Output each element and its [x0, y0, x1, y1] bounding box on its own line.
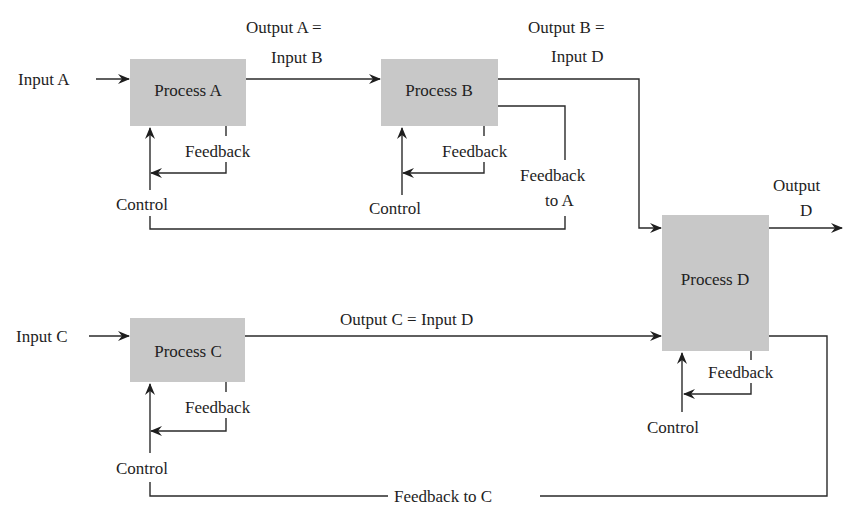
output-c-label: Output C = Input D [340, 310, 473, 329]
feedback-c-label: Feedback [185, 398, 251, 417]
process-d-label: Process D [681, 270, 749, 289]
process-d-group: Process D Output D Feedback Control [647, 176, 842, 437]
feedback-d-label: Feedback [708, 363, 774, 382]
control-a-label: Control [116, 195, 168, 214]
output-b-label: Output B = [528, 18, 605, 37]
feedback-to-a-line-bottom [150, 216, 565, 229]
feedback-to-c-line-right [540, 336, 827, 496]
process-b-group: Process B Feedback Control [369, 59, 508, 218]
process-c-label: Process C [154, 342, 222, 361]
control-d-label: Control [647, 418, 699, 437]
input-c-label: Input C [16, 327, 67, 346]
edge-b-to-d [498, 79, 661, 228]
control-c-label: Control [116, 459, 168, 478]
feedback-d-arrow [684, 383, 751, 394]
feedback-to-a-label-2: to A [545, 191, 575, 210]
process-a-label: Process A [154, 81, 222, 100]
input-a-label: Input A [18, 70, 70, 89]
feedback-a-label: Feedback [185, 142, 251, 161]
feedback-a-arrow [151, 162, 226, 173]
output-a-label: Output A = [246, 18, 322, 37]
process-b-label: Process B [405, 81, 473, 100]
feedback-c-arrow [151, 418, 226, 431]
feedback-b-label: Feedback [442, 142, 508, 161]
feedback-b-arrow [403, 162, 484, 173]
input-d-label-b: Input D [551, 47, 603, 66]
output-d-label-1: Output [773, 176, 821, 195]
feedback-to-c-label: Feedback to C [394, 487, 492, 506]
feedback-to-a-label-1: Feedback [520, 166, 586, 185]
feedback-to-a-line-top [498, 106, 565, 160]
process-a-group: Process A Input A Feedback Control [18, 59, 251, 214]
input-b-label: Input B [271, 48, 322, 67]
process-flow-diagram: Process A Input A Feedback Control Outpu… [0, 0, 860, 521]
output-d-label-2: D [800, 201, 812, 220]
process-c-group: Process C Input C Feedback Control [16, 318, 251, 478]
feedback-to-c-line-left [150, 482, 388, 496]
control-b-label: Control [369, 199, 421, 218]
